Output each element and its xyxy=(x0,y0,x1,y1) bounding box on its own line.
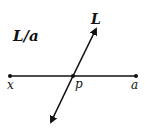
line-L-label: L xyxy=(91,12,101,26)
diagram-canvas: L/a L x p a xyxy=(0,0,145,134)
geometry-figure xyxy=(0,0,145,134)
point-x-label: x xyxy=(7,79,14,91)
point-a-label: a xyxy=(131,79,138,91)
point-p-label: p xyxy=(75,78,83,90)
title-label: L/a xyxy=(13,29,39,44)
line-L-upper xyxy=(73,29,96,76)
line-L-lower xyxy=(51,76,73,122)
